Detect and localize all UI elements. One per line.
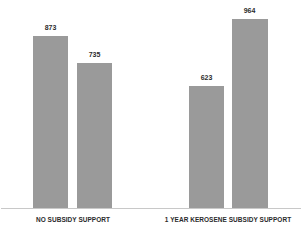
bar-value-label-964: 964	[231, 6, 269, 15]
plot-area: 873 735 623 964	[0, 0, 302, 209]
x-axis-line	[1, 208, 301, 209]
footer-caption	[0, 232, 302, 239]
bar-no-subsidy-873	[33, 36, 68, 208]
category-label-kerosene-subsidy-support: 1 YEAR KEROSENE SUBSIDY SUPPORT	[164, 215, 292, 224]
bar-value-label-623: 623	[188, 73, 226, 82]
bar-no-subsidy-735	[77, 63, 112, 208]
category-labels: NO SUBSIDY SUPPORT 1 YEAR KEROSENE SUBSI…	[0, 215, 302, 227]
category-label-no-subsidy-support: NO SUBSIDY SUPPORT	[18, 215, 128, 224]
bar-kerosene-subsidy-623	[189, 86, 224, 208]
bar-value-label-873: 873	[32, 23, 70, 32]
bar-value-label-735: 735	[76, 50, 114, 59]
bar-kerosene-subsidy-964	[232, 19, 268, 208]
bar-chart: 873 735 623 964 NO SUBSIDY SUPPORT 1 YEA…	[0, 0, 302, 239]
